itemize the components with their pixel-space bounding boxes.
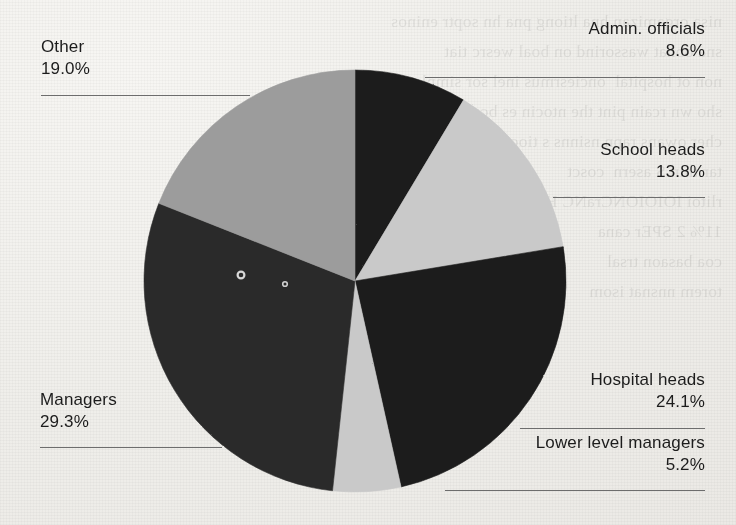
slice-label-lower-level-managers: Lower level managers 5.2% [536, 432, 705, 476]
slice-label-managers: Managers 29.3% [40, 389, 117, 433]
slice-label-school-heads: School heads 13.8% [600, 139, 705, 183]
slice-label-lower-level-managers-name: Lower level managers [536, 433, 705, 452]
slice-label-school-heads-pct: 13.8% [600, 161, 705, 183]
leader-line-school-heads [553, 197, 705, 198]
leader-line-hospital-heads [520, 428, 705, 429]
slice-label-lower-level-managers-pct: 5.2% [536, 454, 705, 476]
slice-label-other-name: Other [41, 37, 84, 56]
leader-line-other [41, 95, 250, 96]
slice-label-admin-officials-pct: 8.6% [589, 40, 705, 62]
slice-label-managers-name: Managers [40, 390, 117, 409]
leader-line-lower-level-managers [445, 490, 705, 491]
pie-chart: Other 19.0% Admin. officials 8.6% School… [0, 0, 736, 525]
slice-label-managers-pct: 29.3% [40, 411, 117, 433]
pie-slice-group [144, 70, 566, 492]
slice-label-admin-officials: Admin. officials 8.6% [589, 18, 705, 62]
slice-label-other-pct: 19.0% [41, 58, 90, 80]
leader-line-admin-officials [425, 77, 705, 78]
slice-label-admin-officials-name: Admin. officials [589, 19, 705, 38]
slice-label-other: Other 19.0% [41, 36, 90, 80]
slice-label-school-heads-name: School heads [600, 140, 705, 159]
slice-label-hospital-heads-pct: 24.1% [590, 391, 705, 413]
slice-label-hospital-heads: Hospital heads 24.1% [590, 369, 705, 413]
leader-line-managers [40, 447, 222, 448]
slice-label-hospital-heads-name: Hospital heads [590, 370, 705, 389]
